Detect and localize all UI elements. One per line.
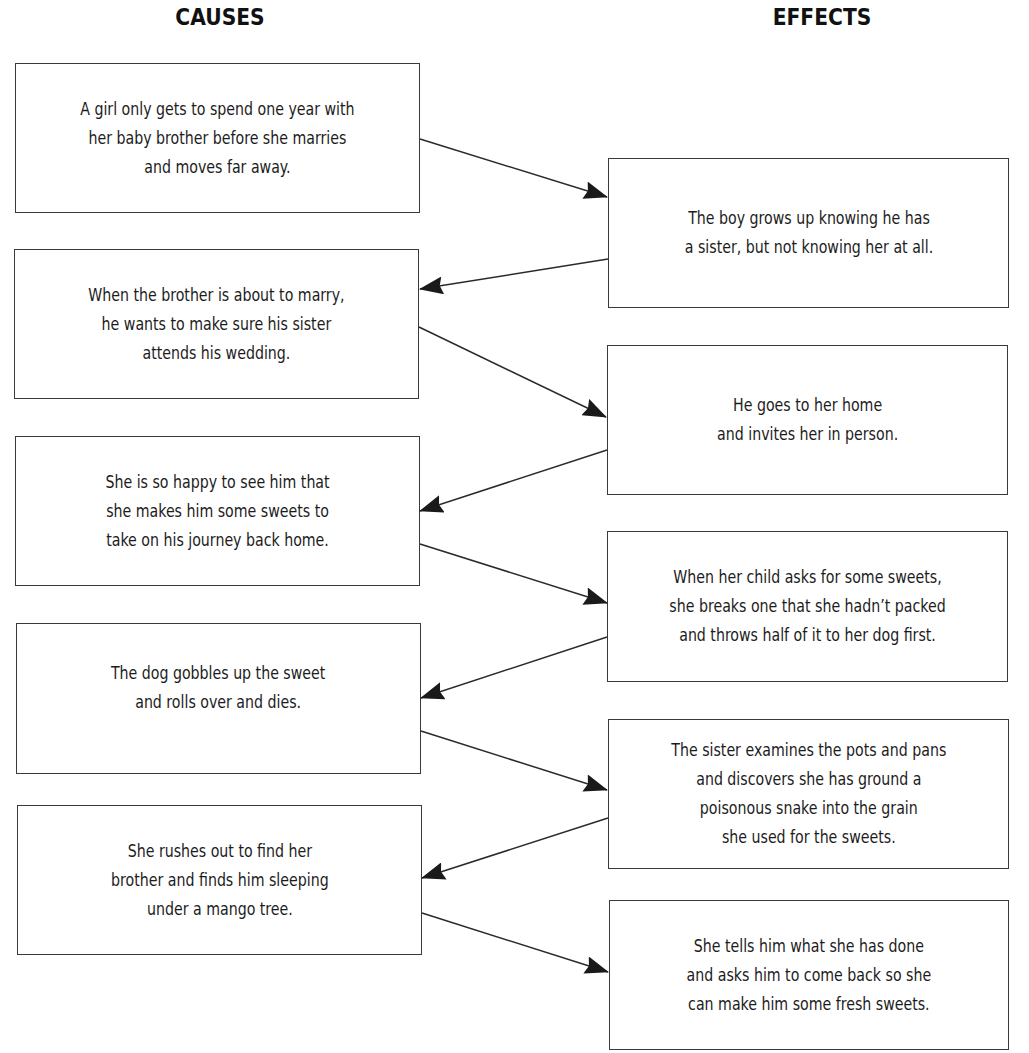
effect-text-2: He goes to her home and invites her in p… <box>717 391 898 449</box>
cause-box-3: She is so happy to see him that she make… <box>15 436 420 586</box>
cause-box-5: She rushes out to find her brother and f… <box>17 805 422 955</box>
cause-text-1: A girl only gets to spend one year with … <box>80 95 354 182</box>
cause-box-1: A girl only gets to spend one year with … <box>15 63 420 213</box>
cause-text-3: She is so happy to see him that she make… <box>105 468 329 555</box>
cause-text-5: She rushes out to find her brother and f… <box>111 837 329 924</box>
cause-text-4: The dog gobbles up the sweet and rolls o… <box>111 659 325 717</box>
effect-box-1: The boy grows up knowing he has a sister… <box>608 158 1009 308</box>
cause-box-4: The dog gobbles up the sweet and rolls o… <box>16 623 421 774</box>
cause-box-2: When the brother is about to marry, he w… <box>14 249 419 399</box>
effect-text-1: The boy grows up knowing he has a sister… <box>684 204 932 262</box>
arrow-cause3-to-effect3 <box>420 544 607 603</box>
effect-text-4: The sister examines the pots and pans an… <box>671 736 946 852</box>
effect-text-3: When her child asks for some sweets, she… <box>669 563 945 650</box>
arrow-effect4-to-cause5 <box>422 818 608 878</box>
arrow-cause1-to-effect1 <box>420 139 607 197</box>
effects-heading: EFFECTS <box>752 4 893 30</box>
causes-heading: CAUSES <box>150 4 291 30</box>
arrow-cause2-to-effect2 <box>419 327 606 417</box>
effect-box-4: The sister examines the pots and pans an… <box>608 719 1009 869</box>
arrow-effect1-to-cause2 <box>420 259 608 289</box>
effect-box-5: She tells him what she has done and asks… <box>609 900 1009 1050</box>
effect-box-2: He goes to her home and invites her in p… <box>607 345 1008 495</box>
arrow-cause4-to-effect4 <box>421 731 607 790</box>
effect-text-5: She tells him what she has done and asks… <box>687 932 932 1019</box>
arrow-effect3-to-cause4 <box>421 637 607 698</box>
arrow-effect2-to-cause3 <box>420 450 607 511</box>
effect-box-3: When her child asks for some sweets, she… <box>607 531 1008 682</box>
arrow-cause5-to-effect5 <box>422 913 608 972</box>
cause-text-2: When the brother is about to marry, he w… <box>88 281 344 368</box>
